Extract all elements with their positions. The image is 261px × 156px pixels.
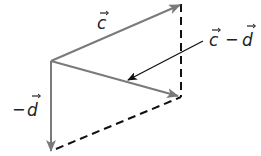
label-minus-d: − d: [12, 94, 41, 120]
label-c-minus-d-right: d: [242, 30, 253, 50]
vector-c-minus-d-arrow: [51, 61, 178, 96]
label-c: c: [97, 11, 109, 33]
vector-c-arrow: [51, 5, 180, 61]
vector-diagram: c c − d − d: [0, 0, 261, 156]
label-c-minus-d: c − d: [209, 24, 256, 50]
dashed-edge-bottom: [56, 97, 181, 149]
label-c-minus-d-op: −: [225, 30, 238, 49]
label-c-minus-d-left: c: [209, 30, 219, 50]
label-minus-d-base: d: [27, 100, 38, 120]
label-minus-d-prefix: −: [12, 100, 25, 119]
label-c-text: c: [97, 13, 107, 33]
label-pointer-arrow: [128, 41, 203, 80]
